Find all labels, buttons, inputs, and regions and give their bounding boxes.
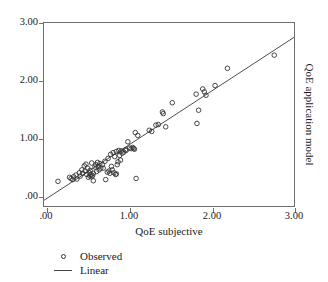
data-point: [115, 162, 120, 167]
plot-svg: [44, 23, 294, 206]
data-point: [112, 154, 117, 159]
plot-area: [43, 22, 295, 207]
y-axis-tick-labels: 3.00 2.00 1.00 .00: [0, 22, 38, 207]
x-axis-title: QoE subjective: [43, 225, 295, 237]
data-point: [272, 53, 277, 58]
y-tick-0: [39, 197, 44, 198]
data-point: [133, 130, 138, 135]
data-point: [103, 177, 108, 182]
y-tick-1: [39, 139, 44, 140]
data-point: [170, 100, 175, 105]
legend-item-observed: Observed: [50, 249, 122, 263]
x-axis-tick-labels: .00 1.00 2.00 3.00: [43, 211, 295, 225]
data-point: [56, 179, 61, 184]
data-point: [134, 176, 139, 181]
y-tick-label-2: 2.00: [20, 75, 38, 85]
data-point: [91, 178, 96, 183]
data-point: [163, 125, 168, 130]
y-tick-label-3: 3.00: [20, 17, 38, 27]
legend-label-observed: Observed: [80, 250, 122, 262]
legend-label-linear: Linear: [80, 264, 109, 276]
x-tick-label-1: 1.00: [120, 211, 138, 221]
y-tick-2: [39, 81, 44, 82]
y-axis-title: QoE application model: [296, 22, 316, 207]
data-point: [195, 121, 200, 126]
legend-item-linear: Linear: [50, 263, 122, 277]
observed-points-group: [56, 53, 277, 184]
data-point: [196, 108, 201, 113]
x-tick-label-3: 3.00: [285, 211, 303, 221]
chart-container: 3.00 2.00 1.00 .00 .00 1.00 2.00 3.00 Qo…: [0, 0, 328, 282]
line-icon: [50, 270, 76, 271]
data-point: [194, 92, 199, 97]
y-tick-label-0: .00: [25, 191, 38, 201]
x-tick-label-2: 2.00: [203, 211, 221, 221]
data-point: [213, 83, 218, 88]
chart-legend: Observed Linear: [50, 249, 122, 277]
data-point: [225, 66, 230, 71]
data-point: [135, 133, 140, 138]
linear-fit-line: [44, 37, 294, 200]
x-tick-label-0: .00: [39, 211, 52, 221]
y-tick-label-1: 1.00: [20, 133, 38, 143]
data-point: [126, 139, 131, 144]
open-circle-icon: [50, 254, 76, 259]
y-tick-3: [39, 23, 44, 24]
